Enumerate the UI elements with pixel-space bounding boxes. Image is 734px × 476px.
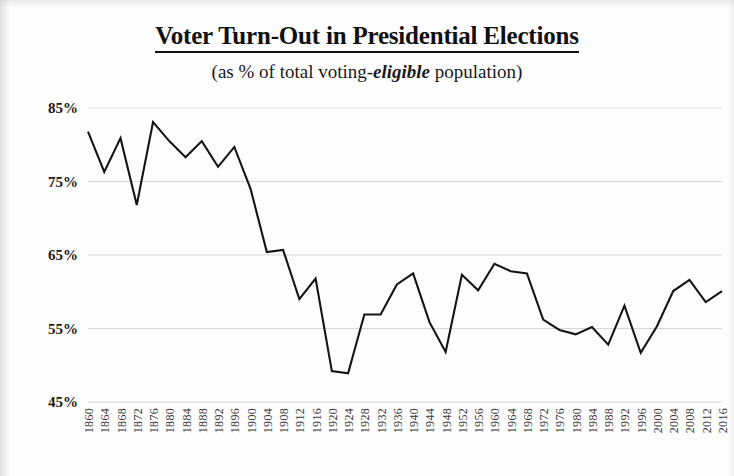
x-axis-tick-label: 1976 <box>553 408 568 433</box>
x-axis-tick-label: 1872 <box>131 408 146 433</box>
x-axis-tick-label: 1912 <box>293 408 308 433</box>
x-axis-tick-label: 1892 <box>212 408 227 433</box>
x-axis-tick-label: 1996 <box>635 408 650 433</box>
turnout-line-series <box>88 122 722 373</box>
x-axis-tick-label: 1876 <box>147 408 162 433</box>
x-axis-tick-label: 1932 <box>375 408 390 433</box>
x-axis-tick-label: 1920 <box>326 408 341 433</box>
x-axis-tick-label: 2000 <box>651 408 666 433</box>
x-axis-tick-label: 1860 <box>82 408 97 433</box>
x-axis-tick-label: 1988 <box>602 408 617 433</box>
x-axis-tick-label: 2016 <box>716 408 731 433</box>
gridlines <box>88 108 722 402</box>
x-axis-tick-label: 1968 <box>521 408 536 433</box>
x-axis-tick-label: 1904 <box>261 408 276 433</box>
x-axis-tick-label: 1940 <box>407 408 422 433</box>
x-axis-tick-label: 1884 <box>180 408 195 433</box>
x-axis-tick-label: 1936 <box>391 408 406 433</box>
x-axis-tick-label: 1864 <box>98 408 113 433</box>
x-axis-tick-label: 2008 <box>683 408 698 433</box>
y-axis-tick-label: 75% <box>30 173 78 190</box>
x-axis-tick-label: 1992 <box>618 408 633 433</box>
x-axis-tick-label: 1964 <box>505 408 520 433</box>
x-axis-tick-label: 1960 <box>488 408 503 433</box>
chart-page: Voter Turn-Out in Presidential Elections… <box>0 0 734 476</box>
x-axis-tick-label: 1944 <box>423 408 438 433</box>
x-axis-tick-label: 1948 <box>440 408 455 433</box>
x-axis-tick-label: 1952 <box>456 408 471 433</box>
line-chart-svg <box>0 0 734 476</box>
x-axis-tick-label: 1956 <box>472 408 487 433</box>
x-axis-tick-label: 1924 <box>342 408 357 433</box>
x-axis-tick-label: 1868 <box>115 408 130 433</box>
y-axis-tick-label: 55% <box>30 320 78 337</box>
x-axis-tick-label: 1888 <box>196 408 211 433</box>
x-axis-tick-label: 2004 <box>667 408 682 433</box>
x-axis-tick-label: 1900 <box>245 408 260 433</box>
x-axis-tick-label: 2012 <box>700 408 715 433</box>
x-axis-tick-label: 1980 <box>570 408 585 433</box>
x-axis-tick-label: 1928 <box>358 408 373 433</box>
plot-area: 85%75%65%55%45% 186018641868187218761880… <box>0 0 734 476</box>
x-axis-tick-label: 1916 <box>310 408 325 433</box>
x-axis-tick-label: 1896 <box>228 408 243 433</box>
y-axis-tick-label: 45% <box>30 394 78 411</box>
y-axis-tick-label: 65% <box>30 247 78 264</box>
x-axis-tick-label: 1908 <box>277 408 292 433</box>
x-axis-tick-label: 1984 <box>586 408 601 433</box>
x-axis-tick-label: 1880 <box>163 408 178 433</box>
x-axis-tick-label: 1972 <box>537 408 552 433</box>
y-axis-tick-label: 85% <box>30 100 78 117</box>
